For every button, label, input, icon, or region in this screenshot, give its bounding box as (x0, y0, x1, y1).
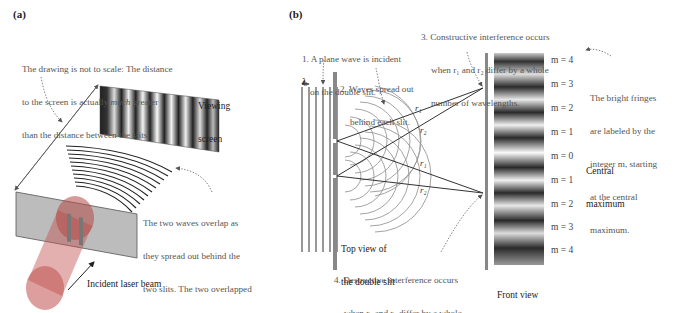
top-view-label-line: the double slit (341, 277, 395, 288)
panel-b-label: (b) (289, 8, 302, 20)
central-maximum-label: Central maximum (586, 144, 625, 221)
overlap-note: The two waves overlap as they spread out… (143, 196, 252, 313)
path-label-r2-top: r₂ (420, 125, 427, 135)
fringe-order-label: m = 1 (551, 127, 573, 137)
step3-line: when r₁ and r₂ differ by a whole (421, 65, 550, 76)
fringe-order-label: m = 4 (551, 55, 573, 65)
scale-note-emphasis: much (111, 97, 131, 107)
fringe-order-label: m = 0 (551, 151, 573, 161)
viewing-screen-label-line: screen (198, 134, 230, 145)
overlap-note-line: The two waves overlap as (143, 218, 252, 229)
central-maximum-line: Central (586, 166, 625, 177)
scale-note-line: to the screen is actually much greater (22, 97, 173, 108)
fringe-order-label: m = 3 (551, 222, 573, 232)
beam-label: Incident laser beam (87, 279, 161, 290)
fringe-note-line: maximum. (590, 225, 657, 236)
step4-line: when r₁ and r₂ differ by a whole (334, 308, 462, 313)
fringe-note-line: are labeled by the (590, 126, 657, 137)
step2-line: behind each slit. (340, 117, 414, 128)
overlap-note-line: they spread out behind the (143, 251, 252, 262)
central-maximum-line: maximum (586, 199, 625, 210)
viewing-screen-label: Viewing screen (198, 79, 230, 156)
step3-note: 3. Constructive interference occurs when… (421, 10, 550, 120)
path-label-r2-bottom: r₂ (420, 185, 427, 195)
step2-line: 2. Waves spread out (340, 84, 414, 95)
fringe-order-label: m = 2 (551, 103, 573, 113)
path-label-r1-top: r₁ (415, 103, 422, 113)
scale-note-line: than the distance between the slits. (22, 130, 173, 141)
fringe-order-label: m = 1 (551, 175, 573, 185)
top-view-label-line: Top view of (341, 244, 395, 255)
fringe-order-label: m = 4 (551, 245, 573, 255)
fringe-order-label: m = 3 (551, 79, 573, 89)
top-view-label: Top view of the double slit (341, 222, 395, 299)
fringe-note-line: The bright fringes (590, 93, 657, 104)
scale-note: The drawing is not to scale: The distanc… (22, 42, 173, 152)
front-view-label: Front view of screen (497, 268, 538, 313)
scale-note-line: The drawing is not to scale: The distanc… (22, 64, 173, 75)
fringe-order-label: m = 2 (551, 199, 573, 209)
viewing-screen-label-line: Viewing (198, 101, 230, 112)
step3-line: 3. Constructive interference occurs (421, 32, 550, 43)
step3-line: number of wavelengths. (421, 98, 550, 109)
front-view-label-line: Front view (497, 290, 538, 301)
panel-a-label: (a) (13, 8, 26, 20)
path-label-r1-bottom: r₁ (420, 158, 427, 168)
step2-note: 2. Waves spread out behind each slit. (340, 62, 414, 139)
plane-wavefronts (302, 87, 337, 252)
